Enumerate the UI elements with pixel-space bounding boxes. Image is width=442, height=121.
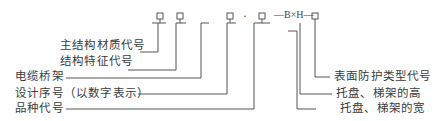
cable-tray-model-code-diagram: · —B×H— 主结构材质代号 结构特征代号 电缆桥架 设计序号（以数字表示） … [0, 0, 442, 121]
label-surface-protection: 表面防护类型代号 [334, 70, 432, 83]
label-cable-tray: 电缆桥架 [15, 70, 64, 83]
code-box-1 [157, 13, 163, 19]
code-box-4 [259, 13, 265, 19]
code-box-3 [227, 13, 233, 19]
label-variety-code: 品种代号 [15, 102, 64, 115]
label-tray-width: 托盘、梯架的宽 [340, 102, 425, 115]
label-tray-height: 托盘、梯架的高 [336, 87, 421, 100]
label-structure-feature: 结构特征代号 [60, 55, 133, 68]
label-design-serial: 设计序号（以数字表示） [15, 87, 149, 100]
code-box-2 [177, 13, 183, 19]
label-main-material: 主结构材质代号 [60, 39, 145, 52]
code-b-x-h: —B×H— [274, 9, 314, 21]
code-dot: · [243, 10, 247, 22]
